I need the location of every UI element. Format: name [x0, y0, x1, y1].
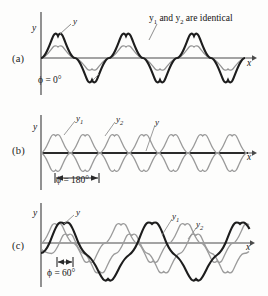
- panel-c-plot: [0, 195, 268, 296]
- panel-b-plot: [0, 95, 268, 195]
- panel-a-plot: [0, 0, 268, 95]
- panel-b-leader-y2: [105, 122, 115, 136]
- panel-c-x-axis-arrow: [250, 240, 255, 246]
- panel-a-x-axis-arrow: [252, 55, 257, 61]
- panel-a-leader-note: [149, 24, 157, 40]
- panel-b-leader-y1: [64, 121, 75, 135]
- panel-b-phase-arrow-left: [56, 175, 63, 181]
- panel-b-x-axis-arrow: [252, 150, 257, 156]
- panel-c-phase-arrow-left: [58, 259, 64, 265]
- panel-c-leader-y1: [162, 219, 172, 235]
- wave-superposition-figure: (a) y x y y1 and y2 are identical ϕ = 0°: [0, 0, 268, 296]
- panel-a: (a) y x y y1 and y2 are identical ϕ = 0°: [0, 0, 268, 95]
- panel-c: (c) y x y y1 y2 ϕ = 60°: [0, 195, 268, 296]
- panel-c-phase-arrow-right: [66, 259, 72, 265]
- panel-a-leader-y: [60, 24, 71, 34]
- panel-b: (b) y x y1 y2 y ϕ = 180°: [0, 95, 268, 195]
- panel-b-phase-arrow-right: [91, 175, 98, 181]
